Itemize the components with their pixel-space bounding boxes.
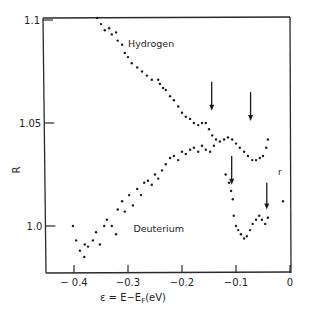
data-point: [147, 180, 149, 182]
data-point: [162, 87, 164, 89]
data-point: [239, 147, 241, 149]
data-point: [154, 173, 156, 175]
data-point: [108, 27, 110, 29]
x-axis-label: ε = E−EF(eV): [100, 292, 166, 305]
data-point: [201, 145, 203, 147]
data-point: [233, 215, 235, 217]
data-point: [181, 151, 183, 153]
data-point: [95, 231, 97, 233]
data-point: [115, 31, 117, 33]
x-tick-label: −0.3: [116, 277, 140, 288]
data-point: [197, 124, 199, 126]
data-point: [117, 39, 119, 41]
data-point: [189, 118, 191, 120]
data-point: [215, 138, 217, 140]
data-point: [259, 157, 261, 159]
data-point: [83, 256, 85, 258]
chart: − 0.4−0.3−0.2−0.10 1.01.051.1 r Hydrogen…: [0, 0, 310, 315]
series-hydrogen: [96, 17, 269, 162]
data-point: [106, 219, 108, 221]
data-point: [181, 112, 183, 114]
data-point: [205, 122, 207, 124]
data-point: [141, 70, 143, 72]
data-point: [177, 105, 179, 107]
data-point: [193, 147, 195, 149]
series-deuterium: [72, 145, 284, 259]
data-point: [213, 145, 215, 147]
data-point: [282, 200, 284, 202]
data-point: [249, 229, 251, 231]
data-point: [96, 17, 98, 19]
data-point: [173, 155, 175, 157]
data-point: [87, 245, 89, 247]
series-label-hydrogen: Hydrogen: [128, 38, 174, 49]
data-point: [136, 66, 138, 68]
data-point: [265, 147, 267, 149]
data-point: [243, 151, 245, 153]
data-point: [193, 122, 195, 124]
x-axis-ticks: − 0.4−0.3−0.2−0.10: [60, 265, 293, 288]
x-tick-label: 0: [287, 277, 293, 288]
data-point: [124, 52, 126, 54]
data-point: [99, 243, 101, 245]
data-point: [173, 99, 175, 101]
data-point: [231, 138, 233, 140]
data-point: [140, 194, 142, 196]
data-point: [159, 83, 161, 85]
data-point: [219, 140, 221, 142]
y-tick-label: 1.05: [19, 118, 41, 129]
data-point: [264, 223, 266, 225]
data-point: [169, 157, 171, 159]
data-point: [240, 233, 242, 235]
data-point: [267, 138, 269, 140]
x-axis-label-main: ε = E−E: [100, 292, 141, 303]
data-point: [75, 239, 77, 241]
data-point: [255, 159, 257, 161]
data-point: [84, 243, 86, 245]
data-point: [189, 149, 191, 151]
y-axis-ticks: 1.01.051.1: [19, 15, 55, 232]
series-label-deuterium: Deuterium: [133, 223, 184, 234]
annotations: r: [209, 82, 282, 210]
y-tick-label: 1.1: [24, 15, 40, 26]
data-point: [243, 237, 245, 239]
arrow-down-icon: [248, 92, 253, 121]
data-point: [227, 136, 229, 138]
data-point: [165, 163, 167, 165]
data-point: [157, 177, 159, 179]
arrow-down-icon: [209, 82, 214, 111]
data-point: [246, 235, 248, 237]
x-axis-label-unit: (eV): [145, 292, 166, 303]
data-point: [251, 159, 253, 161]
data-point: [235, 142, 237, 144]
annotation-text: r: [278, 167, 282, 177]
data-point: [223, 138, 225, 140]
data-point: [104, 29, 106, 31]
data-point: [143, 182, 145, 184]
data-point: [258, 215, 260, 217]
data-point: [151, 184, 153, 186]
data-point: [127, 56, 129, 58]
plot-frame: [43, 17, 291, 273]
data-point: [237, 229, 239, 231]
x-tick-label: −0.2: [170, 277, 194, 288]
data-point: [225, 173, 227, 175]
data-point: [247, 155, 249, 157]
data-point: [111, 225, 113, 227]
data-point: [111, 33, 113, 35]
data-point: [230, 190, 232, 192]
data-point: [255, 219, 257, 221]
data-point: [157, 79, 159, 81]
data-point: [131, 62, 133, 64]
x-tick-label: −0.1: [224, 277, 248, 288]
data-point: [151, 79, 153, 81]
data-point: [79, 250, 81, 252]
data-point: [232, 198, 234, 200]
data-points: [72, 17, 284, 258]
data-point: [121, 200, 123, 202]
data-point: [115, 233, 117, 235]
data-point: [235, 225, 237, 227]
arrow-down-icon: [229, 156, 234, 185]
data-point: [92, 239, 94, 241]
data-point: [197, 151, 199, 153]
